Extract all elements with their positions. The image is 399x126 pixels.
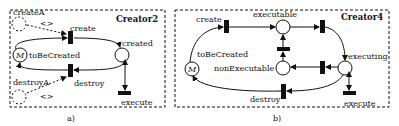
panel-a-caption: a) [67, 114, 75, 123]
panel-b-title: Creator4 [341, 12, 383, 22]
place-executing [338, 61, 352, 75]
transition-destroy-b [281, 84, 286, 99]
place-createA [12, 17, 26, 31]
transition-create-b-label: create [196, 15, 222, 24]
transition-destroy-label: destroy [74, 79, 105, 88]
place-nonExecutable-label: nonExecutable [214, 64, 275, 73]
panel-a: Creator2 createA <> destroyA <> M toBeCr… [10, 8, 165, 123]
panel-b-caption: b) [273, 114, 281, 123]
transition-start [320, 20, 325, 33]
transition-execute-b-label: execute [344, 99, 376, 108]
transition-execute-b [343, 91, 356, 95]
place-executable [276, 20, 290, 34]
transition-enable [277, 47, 290, 51]
transition-create-b [224, 20, 229, 33]
panel-b: Creator4 M toBeCreated create executable… [175, 10, 389, 123]
place-nonExecutable [276, 61, 290, 75]
place-created [115, 48, 129, 62]
transition-suspend [320, 61, 325, 74]
transition-destroy [68, 64, 73, 77]
petri-net-diagram: Creator2 createA <> destroyA <> M toBeCr… [0, 0, 399, 126]
place-created-label: created [122, 39, 153, 48]
marking-M-b: M [187, 65, 197, 74]
place-toBeCreated-b-label: toBeCreated [197, 50, 248, 59]
place-executing-label: executing [348, 52, 388, 61]
transition-execute-label: execute [121, 98, 153, 107]
create-annotation: <> [40, 19, 53, 28]
place-destroyA-label: destroyA [13, 78, 49, 87]
marking-M: M [15, 51, 25, 60]
place-destroyA [12, 90, 26, 104]
place-executable-label: executable [253, 10, 297, 19]
place-createA-label: createA [13, 8, 45, 17]
place-toBeCreated-label: toBeCreated [29, 51, 80, 60]
transition-execute [118, 91, 131, 95]
panel-a-title: Creator2 [116, 14, 158, 24]
transition-create-label: create [70, 24, 96, 33]
destroy-annotation: <> [40, 92, 53, 101]
transition-destroy-b-label: destroy [250, 95, 281, 104]
